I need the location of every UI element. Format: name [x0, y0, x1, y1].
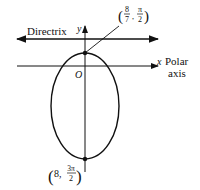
x-axis-label: x [156, 56, 162, 67]
directrix-label: Directrix [27, 25, 67, 37]
svg-text:,: , [132, 12, 134, 21]
polar-ellipse-diagram: Directrix y x Polar axis O ( 8 7 , π 2 )… [0, 0, 200, 190]
bottom-vertex-label: ( 8, 3π 2 ) [48, 164, 82, 186]
svg-text:2: 2 [69, 174, 73, 183]
svg-text:): ) [144, 8, 149, 25]
svg-text:): ) [76, 167, 82, 186]
bottom-vertex-point [83, 157, 87, 161]
svg-text:7: 7 [125, 15, 129, 24]
svg-text:3π: 3π [67, 164, 75, 173]
polar-axis-label-line1: Polar [165, 55, 189, 67]
top-vertex-label: ( 8 7 , π 2 ) [118, 5, 149, 25]
svg-text:2: 2 [138, 15, 142, 24]
svg-text:π: π [138, 5, 142, 14]
y-axis-label: y [76, 23, 82, 34]
svg-text:8: 8 [125, 5, 129, 14]
svg-text:8,: 8, [54, 168, 62, 179]
origin-label: O [75, 69, 82, 80]
svg-text:(: ( [118, 8, 123, 25]
polar-axis-label-line2: axis [168, 67, 186, 79]
